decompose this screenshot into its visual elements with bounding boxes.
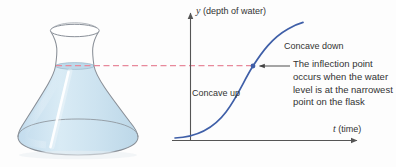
x-axis-label: t (time) <box>333 122 361 136</box>
y-axis-label-text: (depth of water) <box>203 6 266 16</box>
annotation-inflection-point: The inflection point occurs when the wat… <box>293 58 395 109</box>
y-axis-label: y (depth of water) <box>196 4 266 18</box>
figure-water-depth-flask: y (depth of water) t (time) Concave down… <box>0 0 396 167</box>
depth-curve <box>175 22 303 138</box>
annotation-concave-up: Concave up <box>192 88 240 100</box>
x-axis-label-text: (time) <box>338 124 361 134</box>
flask-rim-outer-ellipse <box>50 24 99 36</box>
x-axis-symbol: t <box>333 123 336 134</box>
y-axis-symbol: y <box>196 5 200 16</box>
flask-neck-left-wall <box>51 31 57 66</box>
inflection-point-marker <box>251 64 256 69</box>
annotation-concave-down: Concave down <box>284 41 344 53</box>
flask-base-shadow <box>19 151 137 159</box>
flask-illustration <box>18 23 138 159</box>
flask-neck-right-wall <box>93 31 99 66</box>
